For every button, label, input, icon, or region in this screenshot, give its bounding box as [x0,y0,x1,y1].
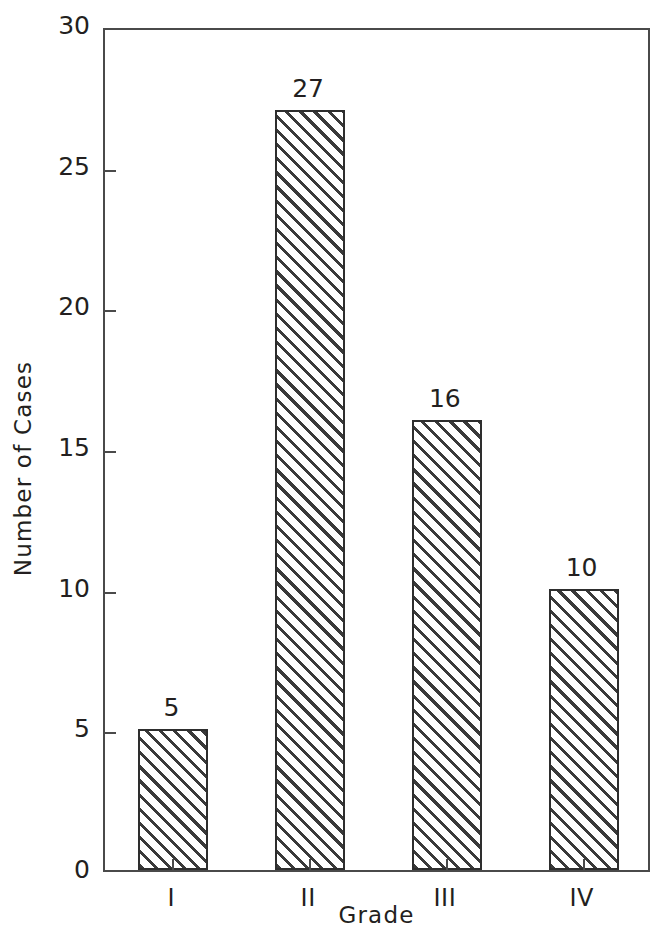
x-axis-tick [446,859,448,870]
y-axis-tick-label: 20 [12,292,90,321]
bar-chart-figure: Number of Cases Grade 051015202530I5II27… [0,0,669,937]
y-axis-tick-label: 10 [12,574,90,603]
y-axis-tick [105,310,116,312]
y-axis-tick [105,170,116,172]
x-axis-tick [583,859,585,870]
x-axis-tick-label: III [405,884,485,912]
x-axis-tick-label: II [268,884,348,912]
x-axis-tick [172,859,174,870]
bar [138,729,208,870]
y-axis-tick-label: 5 [12,714,90,743]
y-axis-tick-label: 25 [12,152,90,181]
bar [412,420,482,870]
bar [549,589,619,870]
y-axis-tick [105,451,116,453]
x-axis-tick-label: IV [542,884,622,912]
y-axis-tick-label: 30 [12,11,90,40]
bar-value-label: 5 [126,693,216,722]
x-axis-tick [309,859,311,870]
y-axis-tick-label: 0 [12,855,90,884]
x-axis-tick-label: I [131,884,211,912]
y-axis-tick-label: 15 [12,433,90,462]
bar [275,110,345,870]
plot-area [103,28,650,872]
bar-value-label: 10 [537,553,627,582]
y-axis-title: Number of Cases [0,0,46,937]
y-axis-tick [105,732,116,734]
bar-value-label: 27 [263,74,353,103]
y-axis-tick [105,592,116,594]
bar-value-label: 16 [400,384,490,413]
